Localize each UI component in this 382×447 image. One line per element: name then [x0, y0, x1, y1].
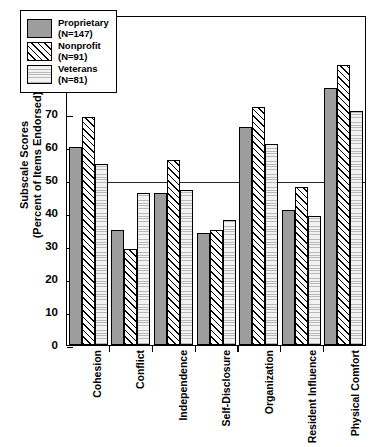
legend-label-proprietary: Proprietary (N=147): [58, 18, 109, 39]
legend-n-nonprofit: (N=91): [58, 52, 101, 63]
legend-label-veterans: Veterans (N=81): [58, 64, 98, 85]
bar-nonprofit-cohesion: [82, 117, 95, 345]
bar-group-resident-influence: [280, 17, 323, 345]
legend-name-nonprofit: Nonprofit: [58, 40, 101, 51]
legend-swatch-veterans: [27, 65, 52, 84]
x-label-independence: Independence: [177, 350, 189, 447]
bar-nonprofit-physical-comfort: [337, 65, 350, 346]
legend-item-nonprofit: Nonprofit (N=91): [27, 41, 109, 62]
x-label-physical-comfort: Physical Comfort: [349, 350, 361, 447]
x-label-cohesion: Cohesion: [91, 350, 103, 447]
bar-proprietary-resident-influence: [282, 210, 295, 345]
bar-veterans-organization: [265, 144, 278, 345]
bar-veterans-self-disclosure: [223, 220, 236, 345]
legend-swatch-proprietary: [27, 19, 52, 38]
bar-veterans-resident-influence: [308, 216, 321, 345]
legend-item-proprietary: Proprietary (N=147): [27, 18, 109, 39]
bar-nonprofit-conflict: [124, 249, 137, 345]
bar-group-self-disclosure: [195, 17, 238, 345]
bar-veterans-conflict: [137, 193, 150, 345]
bar-nonprofit-organization: [252, 107, 265, 345]
y-tick-label: 30: [45, 240, 58, 252]
bar-veterans-independence: [180, 190, 193, 345]
bar-nonprofit-resident-influence: [295, 187, 308, 345]
bar-proprietary-self-disclosure: [197, 233, 210, 345]
bar-proprietary-organization: [239, 127, 252, 345]
x-label-resident-influence: Resident Influence: [306, 350, 318, 447]
y-axis-title: Subscale Scores (Percent of Items Endors…: [18, 70, 44, 260]
bar-nonprofit-independence: [167, 160, 180, 345]
legend-item-veterans: Veterans (N=81): [27, 64, 109, 85]
bar-proprietary-independence: [154, 193, 167, 345]
bar-group-organization: [237, 17, 280, 345]
legend-name-proprietary: Proprietary: [58, 17, 109, 28]
x-axis-labels: CohesionConflictIndependenceSelf-Disclos…: [66, 350, 366, 433]
y-tick-label: 40: [45, 207, 58, 219]
y-tick-label: 0: [52, 339, 58, 351]
bar-proprietary-cohesion: [69, 147, 82, 345]
x-label-conflict: Conflict: [134, 350, 146, 447]
y-axis-title-line-2: (Percent of Items Endorsed): [31, 70, 44, 260]
y-tick-label: 10: [45, 306, 58, 318]
y-tick-label: 50: [45, 174, 58, 186]
y-tick-label: 70: [45, 108, 58, 120]
y-tick-label: 20: [45, 273, 58, 285]
legend-label-nonprofit: Nonprofit (N=91): [58, 41, 101, 62]
bar-veterans-cohesion: [95, 164, 108, 346]
bar-group-physical-comfort: [322, 17, 365, 345]
legend-swatch-nonprofit: [27, 42, 52, 61]
chart-legend: Proprietary (N=147) Nonprofit (N=91) Vet…: [20, 10, 117, 93]
legend-n-veterans: (N=81): [58, 75, 98, 86]
y-tick-label: 60: [45, 141, 58, 153]
bar-proprietary-conflict: [111, 230, 124, 346]
y-axis-title-line-1: Subscale Scores: [18, 70, 31, 260]
x-label-self-disclosure: Self-Disclosure: [220, 350, 232, 447]
bar-nonprofit-self-disclosure: [210, 230, 223, 346]
legend-n-proprietary: (N=147): [58, 29, 109, 40]
bar-veterans-physical-comfort: [350, 111, 363, 345]
bar-group-independence: [152, 17, 195, 345]
legend-name-veterans: Veterans: [58, 63, 98, 74]
x-label-organization: Organization: [263, 350, 275, 447]
bar-proprietary-physical-comfort: [324, 88, 337, 345]
